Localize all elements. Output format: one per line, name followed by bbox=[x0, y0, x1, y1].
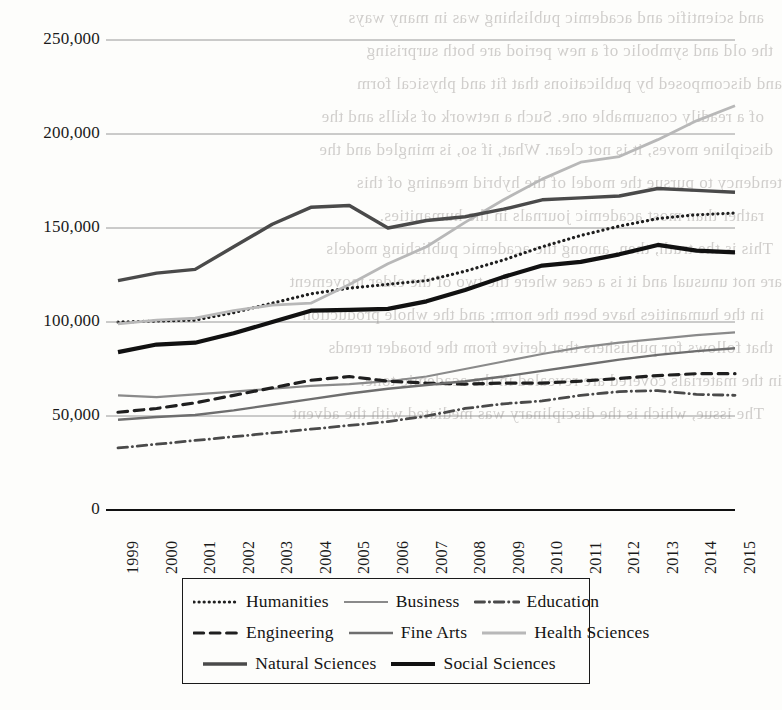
y-tick-label: 50,000 bbox=[0, 405, 100, 425]
legend-row: HumanitiesBusinessEducation bbox=[193, 586, 579, 617]
legend-swatch-health-sciences-icon bbox=[481, 626, 527, 640]
x-tick-label-2006: 2006 bbox=[394, 541, 412, 574]
y-tick-label: 100,000 bbox=[0, 311, 100, 331]
legend-item-label: Natural Sciences bbox=[255, 653, 376, 674]
x-tick-label-2012: 2012 bbox=[625, 541, 643, 574]
x-tick-label-2014: 2014 bbox=[702, 541, 720, 574]
series-line-natural-sciences bbox=[118, 189, 735, 281]
x-tick-label-2002: 2002 bbox=[240, 541, 258, 574]
legend-item-label: Health Sciences bbox=[534, 622, 649, 643]
series-line-fine-arts bbox=[118, 348, 735, 419]
legend-item-label: Education bbox=[527, 591, 600, 612]
legend-swatch-humanities-icon bbox=[193, 595, 239, 609]
x-tick-label-2009: 2009 bbox=[510, 541, 528, 574]
x-tick-label-2004: 2004 bbox=[317, 541, 335, 574]
series-line-education bbox=[118, 391, 735, 448]
legend-item-humanities[interactable]: Humanities bbox=[193, 591, 343, 612]
series-line-health-sciences bbox=[118, 106, 735, 324]
x-tick-label-2008: 2008 bbox=[471, 541, 489, 574]
legend-row: Natural SciencesSocial Sciences bbox=[193, 648, 579, 679]
y-tick-label: 0 bbox=[0, 499, 100, 519]
series-line-business bbox=[118, 332, 735, 397]
series-lines bbox=[118, 106, 735, 448]
x-tick-label-2005: 2005 bbox=[355, 541, 373, 574]
legend-item-natural-sciences[interactable]: Natural Sciences bbox=[202, 653, 390, 674]
x-tick-label-1999: 1999 bbox=[124, 541, 142, 574]
legend-item-health-sciences[interactable]: Health Sciences bbox=[481, 622, 663, 643]
legend-item-fine-arts[interactable]: Fine Arts bbox=[348, 622, 481, 643]
x-tick-label-2010: 2010 bbox=[548, 541, 566, 574]
legend-swatch-business-icon bbox=[343, 595, 389, 609]
x-tick-label-2011: 2011 bbox=[587, 541, 605, 574]
legend-row: EngineeringFine ArtsHealth Sciences bbox=[193, 617, 579, 648]
y-tick-label: 150,000 bbox=[0, 217, 100, 237]
legend-swatch-education-icon bbox=[474, 595, 520, 609]
x-tick-label-2003: 2003 bbox=[278, 541, 296, 574]
chart-legend: HumanitiesBusinessEducationEngineeringFi… bbox=[182, 578, 590, 684]
legend-item-education[interactable]: Education bbox=[474, 591, 614, 612]
x-tick-label-2000: 2000 bbox=[163, 541, 181, 574]
y-tick-label: 250,000 bbox=[0, 29, 100, 49]
legend-item-engineering[interactable]: Engineering bbox=[193, 622, 348, 643]
legend-item-label: Social Sciences bbox=[443, 653, 555, 674]
legend-item-business[interactable]: Business bbox=[343, 591, 474, 612]
x-tick-label-2001: 2001 bbox=[201, 541, 219, 574]
legend-swatch-natural-sciences-icon bbox=[202, 657, 248, 671]
legend-item-label: Fine Arts bbox=[401, 622, 467, 643]
legend-item-label: Engineering bbox=[246, 622, 334, 643]
legend-item-label: Business bbox=[396, 591, 460, 612]
legend-item-social-sciences[interactable]: Social Sciences bbox=[390, 653, 569, 674]
legend-swatch-engineering-icon bbox=[193, 626, 239, 640]
series-line-humanities bbox=[118, 213, 735, 322]
legend-swatch-social-sciences-icon bbox=[390, 657, 436, 671]
y-tick-label: 200,000 bbox=[0, 123, 100, 143]
legend-item-label: Humanities bbox=[246, 591, 329, 612]
x-tick-label-2007: 2007 bbox=[433, 541, 451, 574]
x-tick-label-2015: 2015 bbox=[741, 541, 759, 574]
x-tick-label-2013: 2013 bbox=[664, 541, 682, 574]
gridlines bbox=[118, 40, 735, 416]
legend-swatch-fine-arts-icon bbox=[348, 626, 394, 640]
